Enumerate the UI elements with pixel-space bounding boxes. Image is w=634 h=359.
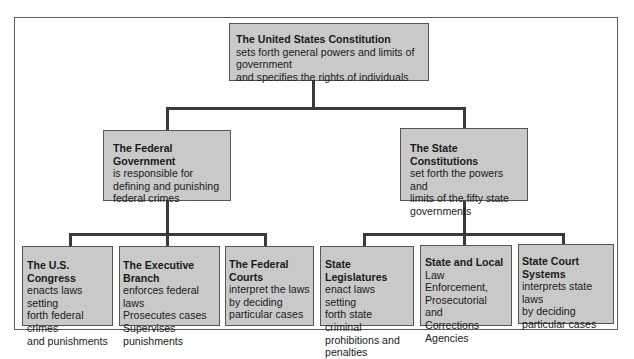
node-text: Agencies [425, 332, 507, 345]
node-text: forth federal crimes [27, 309, 108, 334]
connector-to-legislatures [363, 233, 366, 247]
node-text: Prosecutes cases [123, 309, 216, 322]
node-title: The U.S. Congress [27, 259, 108, 284]
node-title: State Legislatures [325, 258, 409, 283]
node-text: Corrections [425, 319, 507, 332]
node-text: defining and punishing [113, 180, 221, 193]
node-text: enact laws setting [325, 283, 409, 308]
node-text: by deciding [522, 305, 610, 318]
node-text: interpret the laws [229, 283, 310, 296]
node-title: The Executive Branch [123, 259, 216, 284]
node-us-constitution: The United States Constitution sets fort… [229, 23, 429, 81]
node-federal-government: The Federal Government is responsible fo… [103, 130, 231, 201]
node-text: limits of the fifty state [410, 192, 518, 205]
node-text: and specifies the rights of individuals [236, 71, 422, 84]
connector-to-executive [166, 233, 169, 247]
node-text: Supervises [123, 322, 216, 335]
node-text: governments [410, 205, 518, 218]
node-text: enacts laws setting [27, 284, 108, 309]
connector-to-federal [166, 107, 169, 131]
node-text: enforces federal laws [123, 284, 216, 309]
node-title: The Federal Government [113, 142, 221, 167]
node-title: State Court Systems [522, 255, 610, 280]
node-title: The United States Constitution [236, 33, 422, 46]
node-state-court-systems: State Court Systems interprets state law… [518, 244, 614, 324]
node-text: punishments [123, 335, 216, 348]
connector-level1-bar [166, 107, 466, 110]
node-title: The State Constitutions [410, 142, 518, 167]
node-federal-courts: The Federal Courts interpret the laws by… [225, 246, 314, 326]
node-text: sets forth general powers and limits of … [236, 46, 422, 71]
node-state-legislatures: State Legislatures enact laws setting fo… [320, 246, 414, 326]
node-text: forth state criminal [325, 308, 409, 333]
node-text: and punishments [27, 335, 108, 348]
node-text: particular cases [522, 318, 610, 331]
node-text: particular cases [229, 308, 310, 321]
node-text: is responsible for [113, 167, 221, 180]
connector-to-federal-courts [264, 233, 267, 247]
node-title: State and Local [425, 256, 507, 269]
connector-to-state [463, 107, 466, 128]
node-text: set forth the powers and [410, 167, 518, 192]
node-text: interprets state laws [522, 280, 610, 305]
node-text: prohibitions and [325, 334, 409, 347]
node-state-constitutions: The State Constitutions set forth the po… [400, 128, 528, 201]
node-text: by deciding [229, 296, 310, 309]
connector-federal-down [166, 200, 169, 235]
node-us-congress: The U.S. Congress enacts laws setting fo… [22, 246, 113, 326]
connector-root-down [312, 80, 315, 109]
node-state-local-agencies: State and Local Law Enforcement, Prosecu… [420, 245, 512, 326]
connector-to-congress [69, 233, 72, 247]
node-text: Law Enforcement, [425, 269, 507, 294]
node-text: federal crimes [113, 192, 221, 205]
node-title: The Federal Courts [229, 258, 310, 283]
node-text: penalties [325, 346, 409, 359]
node-executive-branch: The Executive Branch enforces federal la… [119, 246, 220, 326]
node-text: Prosecutorial and [425, 294, 507, 319]
